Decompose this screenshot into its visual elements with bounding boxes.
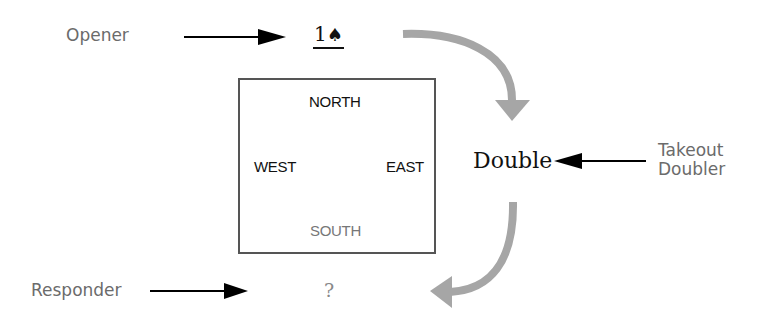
opening-bid-level: 1 <box>314 22 327 46</box>
spade-suit-icon: ♠ <box>327 24 343 45</box>
response-bid: ? <box>324 279 334 301</box>
seat-north: NORTH <box>309 93 361 110</box>
double-bid: Double <box>473 148 552 173</box>
opener-label: Opener <box>66 25 129 45</box>
seat-east: EAST <box>386 158 424 175</box>
opening-bid: 1♠ <box>313 22 344 49</box>
responder-arrow-icon <box>150 283 248 299</box>
takeout-doubler-label-line2: Doubler <box>658 160 725 179</box>
takeout-doubler-label: Takeout Doubler <box>658 141 725 179</box>
seat-west: WEST <box>254 158 296 175</box>
takeout-doubler-label-line1: Takeout <box>658 141 725 160</box>
opener-arrow-icon <box>184 29 286 45</box>
seat-south: SOUTH <box>310 222 361 239</box>
takeout-doubler-arrow-icon <box>554 153 646 169</box>
curved-arrow-to-response-icon <box>430 202 513 308</box>
responder-label: Responder <box>31 280 122 300</box>
